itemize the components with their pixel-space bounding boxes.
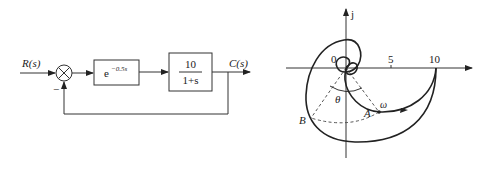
- delay-exponent: −0.5s: [111, 65, 127, 73]
- tick-label-10: 10: [429, 53, 441, 65]
- point-B-label: B: [299, 114, 306, 126]
- tick-label-5: 5: [388, 53, 394, 65]
- plant-denominator: 1+s: [183, 74, 199, 86]
- input-label: R(s): [21, 57, 41, 70]
- outer-nyquist-spiral: [306, 40, 436, 142]
- nyquist-plot: j 0 5 10 A ω B θ: [286, 8, 472, 158]
- point-A-label: A: [363, 107, 371, 119]
- imag-axis-label: j: [350, 8, 354, 20]
- feedback-path: [64, 72, 228, 114]
- point-A-marker: [377, 110, 381, 114]
- plant-numerator: 10: [185, 58, 197, 70]
- ray-to-B: [311, 68, 346, 118]
- delay-base: e: [104, 67, 109, 79]
- summing-junction: [56, 65, 72, 81]
- inner-nyquist-curve: [345, 63, 436, 112]
- block-diagram: R(s) − e −0.5s 10 1+s C(s): [20, 53, 250, 114]
- feedback-sign: −: [53, 83, 59, 95]
- omega-label: ω: [380, 99, 387, 110]
- diagram-canvas: R(s) − e −0.5s 10 1+s C(s) j: [0, 0, 489, 170]
- theta-label: θ: [335, 93, 341, 105]
- output-label: C(s): [229, 57, 248, 70]
